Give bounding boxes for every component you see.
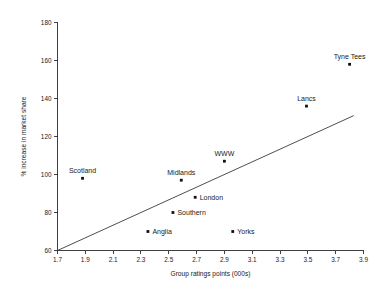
data-point-marker xyxy=(348,63,351,66)
data-point-marker xyxy=(180,179,183,182)
y-tick-label: 60 xyxy=(44,247,52,254)
x-axis: 1.71.92.12.32.52.72.93.13.33.53.73.9 xyxy=(53,251,368,264)
data-points: ScotlandAngliaSouthernMidlandsLondonWWWY… xyxy=(69,53,366,236)
x-tick-label: 2.1 xyxy=(109,256,118,263)
regression-line xyxy=(58,116,354,251)
x-tick-label: 2.9 xyxy=(220,256,229,263)
scatter-chart: 6080100120140160180 1.71.92.12.32.52.72.… xyxy=(0,0,379,290)
data-point-marker xyxy=(231,230,234,233)
y-axis-title: % increase in market share xyxy=(20,96,27,176)
x-tick-label: 3.1 xyxy=(248,256,257,263)
data-point-marker xyxy=(194,196,197,199)
data-point-label: WWW xyxy=(214,150,234,157)
y-tick-label: 120 xyxy=(41,133,52,140)
data-point-label: Midlands xyxy=(167,169,196,176)
x-tick-label: 1.9 xyxy=(81,256,90,263)
data-point-label: Southern xyxy=(177,209,206,216)
x-tick-label: 2.5 xyxy=(164,256,173,263)
x-tick-label: 3.9 xyxy=(359,256,368,263)
y-tick-label: 140 xyxy=(41,95,52,102)
data-point-marker xyxy=(147,230,150,233)
data-point-marker xyxy=(81,177,84,180)
x-tick-label: 2.7 xyxy=(192,256,201,263)
y-tick-label: 160 xyxy=(41,57,52,64)
y-tick-label: 180 xyxy=(41,19,52,26)
y-tick-label: 80 xyxy=(44,209,52,216)
data-point-label: Yorks xyxy=(237,228,255,235)
x-tick-label: 3.7 xyxy=(331,256,340,263)
x-tick-label: 3.3 xyxy=(276,256,285,263)
data-point-label: London xyxy=(200,194,223,201)
data-point-marker xyxy=(223,160,226,163)
y-tick-label: 100 xyxy=(41,171,52,178)
x-tick-label: 3.5 xyxy=(303,256,312,263)
y-axis: 6080100120140160180 xyxy=(41,19,58,254)
data-point-marker xyxy=(172,211,175,214)
plot-area: 6080100120140160180 1.71.92.12.32.52.72.… xyxy=(0,0,379,290)
trend-line xyxy=(58,116,354,251)
data-point-label: Anglia xyxy=(152,228,172,236)
data-point-label: Lancs xyxy=(297,95,316,102)
data-point-label: Tyne Tees xyxy=(334,53,366,61)
data-point-label: Scotland xyxy=(69,167,96,174)
x-axis-title: Group ratings points (000s) xyxy=(171,270,251,278)
data-point-marker xyxy=(305,105,308,108)
x-tick-label: 1.7 xyxy=(53,256,62,263)
x-tick-label: 2.3 xyxy=(137,256,146,263)
